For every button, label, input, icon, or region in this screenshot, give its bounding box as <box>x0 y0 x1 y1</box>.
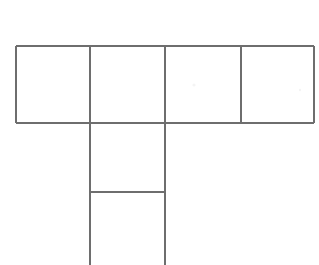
square-net-diagram <box>0 0 319 265</box>
face-row-square-2 <box>90 46 165 123</box>
face-row-square-4 <box>241 46 314 123</box>
face-row-square-1 <box>16 46 90 123</box>
face-column-square-1 <box>90 123 165 192</box>
face-row-square-3 <box>165 46 241 123</box>
paper-speck-2 <box>299 89 301 91</box>
paper-speck-1 <box>192 83 195 86</box>
face-column-square-2 <box>90 192 165 265</box>
figure-canvas: Line drawing of a net made of six square… <box>0 0 319 265</box>
